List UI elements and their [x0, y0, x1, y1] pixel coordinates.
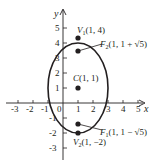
x-axis: -3 -2 -1 0 1 2 3 4 5 x: [6, 100, 149, 114]
x-tick-label: 5: [136, 104, 141, 114]
y-tick-label: 5: [55, 23, 60, 33]
x-tick-label: 3: [106, 104, 111, 114]
x-axis-label: x: [143, 103, 149, 114]
ellipse-diagram: -3 -2 -1 0 1 2 3 4 5 x 5 4 3 2 1 -1 -2 -…: [0, 0, 152, 160]
center-c-point: [75, 85, 80, 90]
v1-label: V1(1, 4): [77, 25, 105, 36]
y-axis-label: y: [53, 8, 59, 19]
y-tick-label: 4: [55, 38, 60, 48]
y-axis: 5 4 3 2 1 -1 -2 -3 y: [49, 8, 67, 160]
f1-label: F1(1, 1 − √5): [99, 127, 147, 138]
x-tick-label: -3: [11, 104, 19, 114]
x-tick-label: 1: [76, 104, 81, 114]
y-tick-label: 1: [55, 83, 60, 93]
y-tick-label: 2: [55, 68, 60, 78]
x-tick-label: -1: [41, 104, 49, 114]
focus-f1-point: [75, 121, 80, 126]
x-tick-label: -2: [26, 104, 34, 114]
y-tick-label: -2: [49, 128, 57, 138]
origin-label: 0: [57, 104, 62, 114]
vertex-v2-point: [75, 130, 80, 135]
focus-f2-point: [75, 48, 80, 53]
v2-label: V2(1, −2): [73, 137, 106, 148]
y-tick-label: -3: [49, 143, 57, 153]
f2-label: F2(1, 1 + √5): [99, 39, 147, 50]
x-tick-label: 4: [121, 104, 126, 114]
f2-leader-line: [78, 44, 102, 51]
x-tick-label: 2: [91, 104, 96, 114]
c-label: C(1, 1): [73, 73, 99, 83]
vertex-v1-point: [75, 35, 80, 40]
